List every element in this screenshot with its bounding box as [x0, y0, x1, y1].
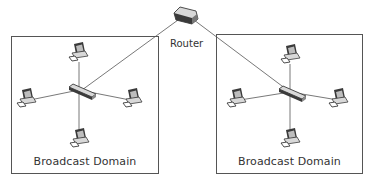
pc-icon-left-left: [17, 88, 36, 107]
pc-icon-left-bottom: [70, 128, 89, 147]
network-diagram: [0, 0, 374, 185]
pc-icon-right-right: [329, 88, 348, 107]
router-icon: [174, 7, 198, 24]
switch-icon-left: [69, 84, 96, 100]
pc-icon-right-left: [227, 88, 246, 107]
switch-icon-right: [279, 86, 306, 102]
pc-icon-right-top: [281, 44, 300, 63]
link-router-left-switch: [82, 20, 178, 90]
link-router-right-switch: [194, 20, 290, 92]
router-label: Router: [170, 38, 202, 49]
pc-icon-right-bottom: [281, 128, 300, 147]
pc-icon-left-right: [123, 88, 142, 107]
pc-icon-left-top: [69, 42, 88, 61]
